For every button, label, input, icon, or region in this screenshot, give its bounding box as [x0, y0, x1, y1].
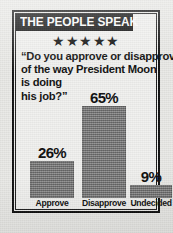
poll-panel: THE PEOPLE SPEAK ★★★★★ “Do you approve o… — [12, 10, 160, 213]
bar-undecided — [130, 185, 172, 198]
bar-label-approve: Approve — [36, 199, 69, 208]
bar-group-approve: 26% Approve — [30, 161, 74, 198]
banner-title: THE PEOPLE SPEAK — [20, 16, 138, 29]
bar-label-disapprove: Disapprove — [82, 199, 126, 208]
bar-disapprove — [82, 106, 126, 198]
bar-value-undecided: 9% — [141, 169, 161, 184]
bar-group-undecided: 9% Undecided — [130, 185, 172, 198]
five-star-rating: ★★★★★ — [14, 34, 158, 48]
banner: THE PEOPLE SPEAK — [16, 14, 133, 31]
bar-approve — [30, 161, 74, 198]
bar-label-undecided: Undecided — [130, 199, 171, 208]
poll-bar-chart: 26% Approve 65% Disapprove 9% Undecided — [16, 58, 156, 209]
bar-value-disapprove: 65% — [90, 90, 118, 105]
bar-group-disapprove: 65% Disapprove — [82, 106, 126, 198]
bar-value-approve: 26% — [38, 145, 66, 160]
newspaper-poll-graphic: THE PEOPLE SPEAK ★★★★★ “Do you approve o… — [0, 0, 173, 233]
